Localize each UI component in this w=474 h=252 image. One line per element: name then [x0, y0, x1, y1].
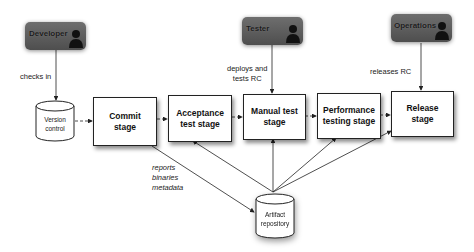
version-control-repository: Version control	[35, 100, 75, 142]
stage-label: test stage	[176, 119, 224, 130]
repo-label: repository	[255, 219, 295, 228]
stage-label: stage	[251, 117, 298, 128]
stage-label: stage	[406, 114, 438, 125]
stage-label: Acceptance	[176, 108, 224, 119]
person-icon	[286, 23, 300, 43]
actor-tester: Tester	[242, 17, 303, 45]
stage-commit: Commitstage	[93, 97, 157, 146]
actor-operations: Operations	[391, 14, 452, 42]
repo-label: control	[35, 124, 75, 133]
note-deploys-tests: deploys and tests RC	[227, 64, 267, 84]
note-releases-rc: releases RC	[370, 67, 411, 77]
stage-label: Release	[406, 103, 438, 114]
repo-label: Version	[35, 115, 75, 124]
stage-label: testing stage	[323, 116, 375, 127]
actor-label: Tester	[246, 24, 269, 33]
person-icon	[69, 28, 83, 48]
note-line: deploys and	[227, 64, 267, 74]
output-item: metadata	[152, 183, 183, 193]
output-item: reports	[152, 163, 183, 173]
note-line: tests RC	[227, 74, 267, 84]
artifact-repository: Artifact repository	[255, 193, 295, 239]
stage-label: Commit	[109, 111, 141, 122]
person-icon	[435, 20, 449, 40]
stage-label: Performance	[323, 105, 375, 116]
stage-label: Manual test	[251, 106, 298, 117]
stage-label: stage	[109, 122, 141, 133]
actor-label: Developer	[29, 29, 68, 38]
note-artifact-outputs: reports binaries metadata	[152, 163, 183, 193]
actor-developer: Developer	[25, 22, 86, 50]
repo-label: Artifact	[255, 210, 295, 219]
stage-manual-test: Manual teststage	[243, 94, 306, 140]
stage-performance: Performancetesting stage	[317, 93, 381, 139]
stage-release: Releasestage	[391, 91, 454, 137]
output-item: binaries	[152, 173, 183, 183]
stage-acceptance: Acceptancetest stage	[168, 95, 232, 142]
note-checks-in: checks in	[20, 72, 51, 82]
actor-label: Operations	[394, 21, 436, 30]
